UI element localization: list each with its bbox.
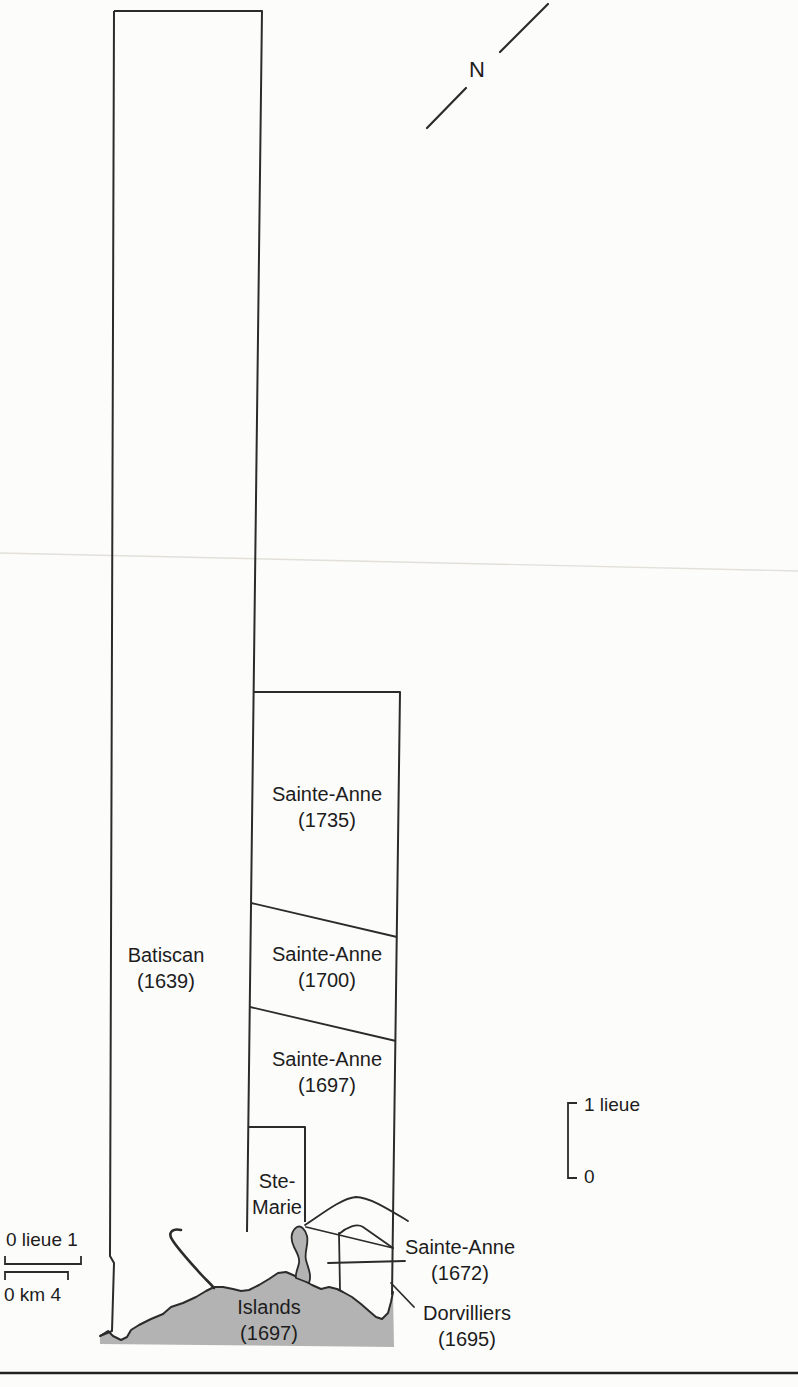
batiscan-boundary xyxy=(100,11,262,1336)
vertical-scale-bracket xyxy=(568,1103,577,1178)
parcel-name: Islands xyxy=(199,1294,339,1320)
vertical-scale-top-label: 1 lieue xyxy=(584,1095,640,1115)
parcel-name: Batiscan xyxy=(96,942,236,968)
parcel-label-batiscan: Batiscan (1639) xyxy=(96,942,236,994)
divider-1700-1697 xyxy=(250,1007,396,1041)
parcel-label-sainte-anne-1700: Sainte-Anne (1700) xyxy=(257,941,397,993)
left-stream xyxy=(170,1230,214,1288)
lieue-scale-label: 0 lieue 1 xyxy=(6,1230,78,1250)
parcel-name: Sainte-Anne xyxy=(257,941,397,967)
parcel-name: Dorvilliers xyxy=(397,1300,537,1326)
parcel-year: (1695) xyxy=(397,1326,537,1352)
map-linework xyxy=(0,0,798,1387)
parcel-year: (1700) xyxy=(257,967,397,993)
parcel-name: Ste- xyxy=(246,1168,308,1194)
parcel-name: Sainte-Anne xyxy=(257,1046,397,1072)
lieue-scale-bar xyxy=(5,1256,81,1264)
seigneury-map: Batiscan (1639) Sainte-Anne (1735) Saint… xyxy=(0,0,798,1387)
north-arrow-line xyxy=(427,4,548,128)
sainte-anne-1672-pointer-upper xyxy=(306,1227,393,1248)
parcel-year: (1735) xyxy=(257,807,397,833)
ste-marie-outlet-stream xyxy=(292,1226,310,1283)
scan-crease-line xyxy=(0,553,798,571)
parcel-year: (1697) xyxy=(257,1072,397,1098)
parcel-label-sainte-anne-1735: Sainte-Anne (1735) xyxy=(257,781,397,833)
parcel-label-islands: Islands (1697) xyxy=(199,1294,339,1346)
parcel-year: (1639) xyxy=(96,968,236,994)
parcel-label-sainte-anne-1697: Sainte-Anne (1697) xyxy=(257,1046,397,1098)
north-label: N xyxy=(469,59,485,81)
parcel-label-sainte-anne-1672: Sainte-Anne (1672) xyxy=(390,1234,530,1286)
parcel-label-ste-marie: Ste- Marie xyxy=(246,1168,308,1220)
riverside-parcel-west-edge xyxy=(339,1233,340,1290)
parcel-year: (1672) xyxy=(390,1260,530,1286)
km-scale-label: 0 km 4 xyxy=(4,1285,61,1305)
km-scale-bar xyxy=(5,1272,68,1280)
north-letter: N xyxy=(469,57,485,82)
parcel-name-line2: Marie xyxy=(246,1194,308,1220)
divider-1735-1700 xyxy=(251,903,397,937)
parcel-name: Sainte-Anne xyxy=(390,1234,530,1260)
vertical-scale-bottom-label: 0 xyxy=(584,1167,595,1187)
parcel-year: (1697) xyxy=(199,1320,339,1346)
parcel-name: Sainte-Anne xyxy=(257,781,397,807)
parcel-label-dorvilliers: Dorvilliers (1695) xyxy=(397,1300,537,1352)
